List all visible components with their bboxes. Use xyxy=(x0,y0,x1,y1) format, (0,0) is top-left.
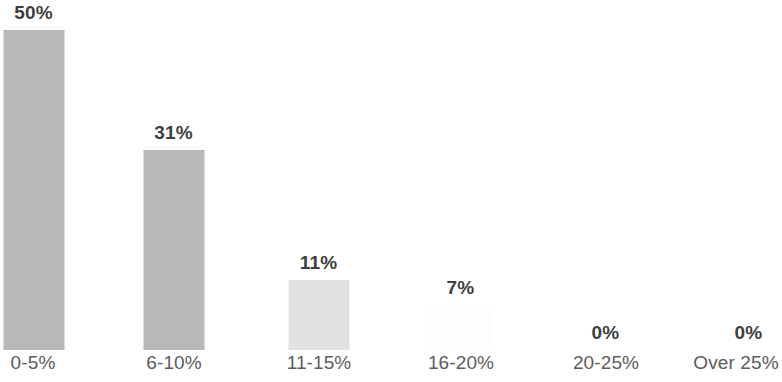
axis-label-6-10: 6-10% xyxy=(146,352,201,374)
axis-label-0-5: 0-5% xyxy=(11,352,56,374)
data-label-0-5: 50% xyxy=(14,2,53,24)
bar-slot-0-5: 50% xyxy=(3,0,64,350)
bar-11-15[interactable] xyxy=(288,280,349,350)
axis-label-11-15: 11-15% xyxy=(287,352,352,374)
axis-label-16-20: 16-20% xyxy=(428,352,494,374)
bar-chart: 50% 31% 11% 7% 0% 0% 0-5% 6-10% 11-15% 1… xyxy=(0,0,782,382)
axis-label-20-25: 20-25% xyxy=(573,352,639,374)
category-axis: 0-5% 6-10% 11-15% 16-20% 20-25% Over 25% xyxy=(0,350,782,382)
bar-slot-16-20: 7% xyxy=(430,0,491,350)
data-label-over-25: 0% xyxy=(735,322,763,344)
bar-slot-20-25: 0% xyxy=(575,0,636,350)
bar-6-10[interactable] xyxy=(143,150,204,350)
data-label-6-10: 31% xyxy=(154,122,193,144)
bar-16-20[interactable] xyxy=(430,305,491,350)
bar-0-5[interactable] xyxy=(3,30,64,350)
data-label-11-15: 11% xyxy=(300,252,338,274)
data-label-16-20: 7% xyxy=(447,277,475,299)
bar-slot-6-10: 31% xyxy=(143,0,204,350)
data-label-20-25: 0% xyxy=(592,322,620,344)
axis-label-over-25: Over 25% xyxy=(693,352,778,374)
plot-area: 50% 31% 11% 7% 0% 0% xyxy=(0,0,782,350)
bar-slot-11-15: 11% xyxy=(288,0,349,350)
bar-slot-over-25: 0% xyxy=(718,0,779,350)
